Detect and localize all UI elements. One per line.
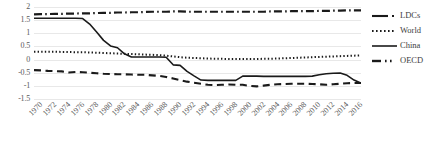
legend-item-china[interactable]: China — [372, 38, 438, 53]
y-tick-label: -1 — [0, 81, 30, 90]
plot-area — [34, 7, 361, 99]
legend-key-world — [372, 26, 398, 36]
series-line-china — [34, 18, 361, 83]
y-tick-label: 2 — [0, 2, 30, 11]
legend-item-ldcs[interactable]: LDCs — [372, 8, 438, 23]
legend-label-ldcs: LDCs — [400, 11, 420, 20]
x-tick-label: 2016 — [347, 100, 365, 118]
x-axis: 1970197219741976197819801982198419861988… — [34, 100, 361, 144]
series-line-world — [34, 52, 361, 59]
series-line-oecd — [34, 10, 361, 14]
legend-label-oecd: OECD — [400, 56, 423, 65]
legend-item-oecd[interactable]: OECD — [372, 53, 438, 68]
legend-key-china — [372, 41, 398, 51]
legend-label-world: World — [400, 26, 421, 35]
y-tick-label: -1.5 — [0, 94, 30, 103]
chart-svg — [34, 7, 361, 99]
y-tick-label: 1.5 — [0, 15, 30, 24]
y-tick-label: 0.5 — [0, 41, 30, 50]
y-axis: 21.510.50-0.5-1-1.5 — [0, 0, 32, 106]
chart-legend: LDCs World China OECD — [372, 8, 438, 68]
legend-key-oecd — [372, 56, 398, 66]
legend-item-world[interactable]: World — [372, 23, 438, 38]
y-tick-label: -0.5 — [0, 68, 30, 77]
y-tick-label: 0 — [0, 55, 30, 64]
legend-label-china: China — [400, 41, 420, 50]
chart-container: 21.510.50-0.5-1-1.5 19701972197419761978… — [0, 0, 438, 144]
legend-key-ldcs — [372, 11, 398, 21]
y-tick-label: 1 — [0, 28, 30, 37]
